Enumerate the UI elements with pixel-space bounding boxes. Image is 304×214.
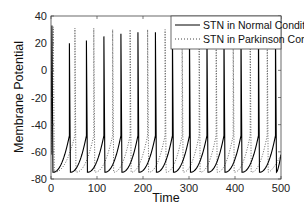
y-tick-label: -40 [31, 119, 47, 131]
y-axis-label: Membrane Potential [12, 41, 26, 153]
x-tick-label: 400 [226, 182, 244, 194]
x-tick-label: 300 [180, 182, 198, 194]
x-tick-label: 0 [48, 182, 54, 194]
y-tick-label: -80 [31, 173, 47, 185]
y-tick-label: -60 [31, 146, 47, 158]
x-tick-label: 200 [134, 182, 152, 194]
legend-label-normal: STN in Normal Condition [203, 19, 304, 31]
legend: STN in Normal Condition STN in Parkinson… [171, 16, 304, 49]
y-tick-label: -20 [31, 92, 47, 104]
x-tick-label: 100 [88, 182, 106, 194]
legend-label-parkinson: STN in Parkinson Condition [203, 33, 304, 45]
y-tick-label: 20 [35, 37, 47, 49]
x-axis-label: Time [152, 191, 179, 205]
y-tick-label: 40 [35, 10, 47, 22]
membrane-potential-chart: 0100200300400500-80-60-40-2002040 Time M… [0, 0, 304, 214]
y-tick-label: 0 [41, 64, 47, 76]
x-tick-label: 500 [272, 182, 290, 194]
